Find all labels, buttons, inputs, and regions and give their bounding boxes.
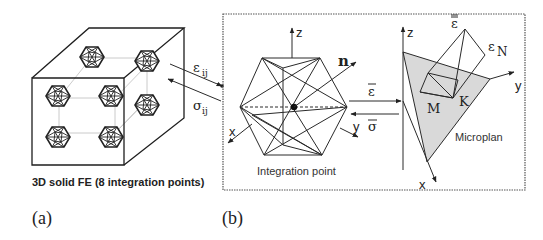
- normal-strain-subscript: N: [497, 45, 508, 59]
- strain-label: ε: [193, 60, 200, 75]
- stress-subscript: ij: [202, 106, 208, 116]
- mean-strain-label: ε: [368, 84, 375, 99]
- micro-z-label: z: [407, 25, 414, 40]
- micro-y-label: y: [515, 78, 522, 93]
- integration-point-icon: [135, 95, 159, 115]
- solid-fe-cube: [32, 28, 184, 165]
- integration-point-icon: [80, 47, 104, 67]
- integration-point-polyhedron: [228, 28, 358, 155]
- panel-b-label: (b): [222, 208, 243, 229]
- panel-a-caption: 3D solid FE (8 integration points): [32, 176, 205, 188]
- cube-top-face: [32, 28, 184, 78]
- point-k-label: K: [459, 94, 469, 109]
- micro-x-label: x: [419, 177, 426, 192]
- microplane-triangle: [403, 52, 490, 162]
- strain-subscript: ij: [202, 68, 208, 78]
- microplane-diagram: ε ij σ ij 3D solid FE (8 integration poi…: [0, 0, 543, 240]
- normal-strain-label: ε: [488, 39, 495, 54]
- integration-point-caption: Integration point: [257, 165, 336, 177]
- integration-point-icon: [135, 51, 159, 71]
- integration-point-icon: [46, 127, 70, 147]
- panel-a-label: (a): [32, 208, 52, 229]
- point-m-label: M: [427, 101, 440, 116]
- micro-strain-label: ε: [451, 16, 458, 31]
- microplane-caption: Microplan: [455, 131, 503, 143]
- mean-stress-label: σ: [368, 119, 377, 134]
- micro-y-axis: [490, 72, 514, 79]
- y-axis-label: y: [353, 119, 360, 134]
- z-axis-label: z: [296, 25, 303, 40]
- stress-label: σ: [193, 98, 202, 113]
- normal-label: n: [338, 52, 349, 70]
- integration-point-icon: [99, 86, 123, 106]
- x-axis-label: x: [229, 124, 236, 139]
- panel-b-frame: [223, 14, 525, 190]
- integration-point-icon: [99, 127, 123, 147]
- integration-point-icon: [46, 86, 70, 106]
